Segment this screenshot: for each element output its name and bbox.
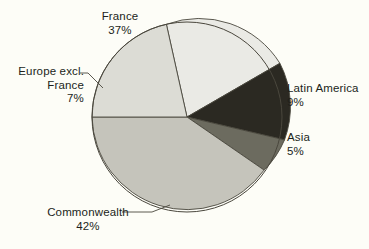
slice-label-latin-america-percent: 9% — [287, 96, 359, 110]
slice-label-europe-percent: 7% — [0, 92, 84, 106]
slice-label-france-percent: 37% — [77, 24, 163, 38]
slice-label-commonwealth-percent: 42% — [28, 220, 148, 234]
slice-label-asia-name: Asia — [287, 131, 310, 143]
slice-label-commonwealth: Commonwealth 42% — [28, 206, 148, 233]
pie-chart: France 37% Europe excl. France 7% Latin … — [0, 0, 369, 249]
slice-label-commonwealth-name: Commonwealth — [47, 206, 129, 218]
slice-label-france: France 37% — [77, 10, 163, 37]
slice-label-latin-america: Latin America 9% — [287, 82, 359, 109]
slice-label-europe-line1: Europe excl. — [18, 65, 84, 77]
slice-label-asia: Asia 5% — [287, 131, 310, 158]
slice-label-europe-excl-france: Europe excl. France 7% — [0, 65, 84, 106]
slice-label-latin-america-name: Latin America — [287, 82, 359, 94]
slice-label-france-name: France — [102, 10, 139, 22]
slice-label-asia-percent: 5% — [287, 145, 310, 159]
slice-label-europe-line2: France — [0, 79, 84, 93]
